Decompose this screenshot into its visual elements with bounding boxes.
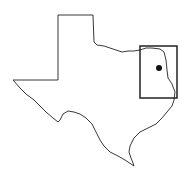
- study-area-box: [140, 46, 177, 98]
- location-marker-dot: [156, 65, 162, 71]
- texas-outline: [13, 15, 175, 166]
- texas-map-svg: [0, 0, 188, 180]
- locator-map: [0, 0, 188, 180]
